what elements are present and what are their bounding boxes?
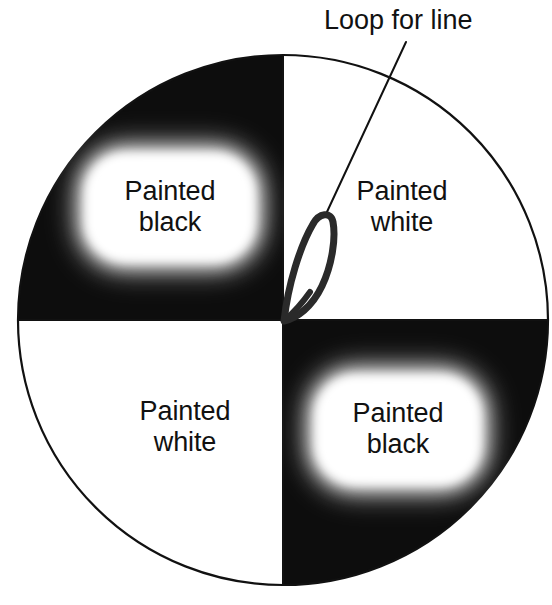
disc-diagram-svg [0, 0, 552, 605]
quadrant-label-bottom-right: Painted black [325, 398, 471, 460]
quadrant-label-bottom-left: Painted white [110, 396, 260, 458]
quadrant-label-top-right: Painted white [327, 176, 477, 238]
loop-callout-label: Loop for line [324, 5, 494, 36]
quadrant-label-top-left: Painted black [95, 176, 245, 238]
figure-root: Painted black Painted white Painted whit… [0, 0, 552, 605]
